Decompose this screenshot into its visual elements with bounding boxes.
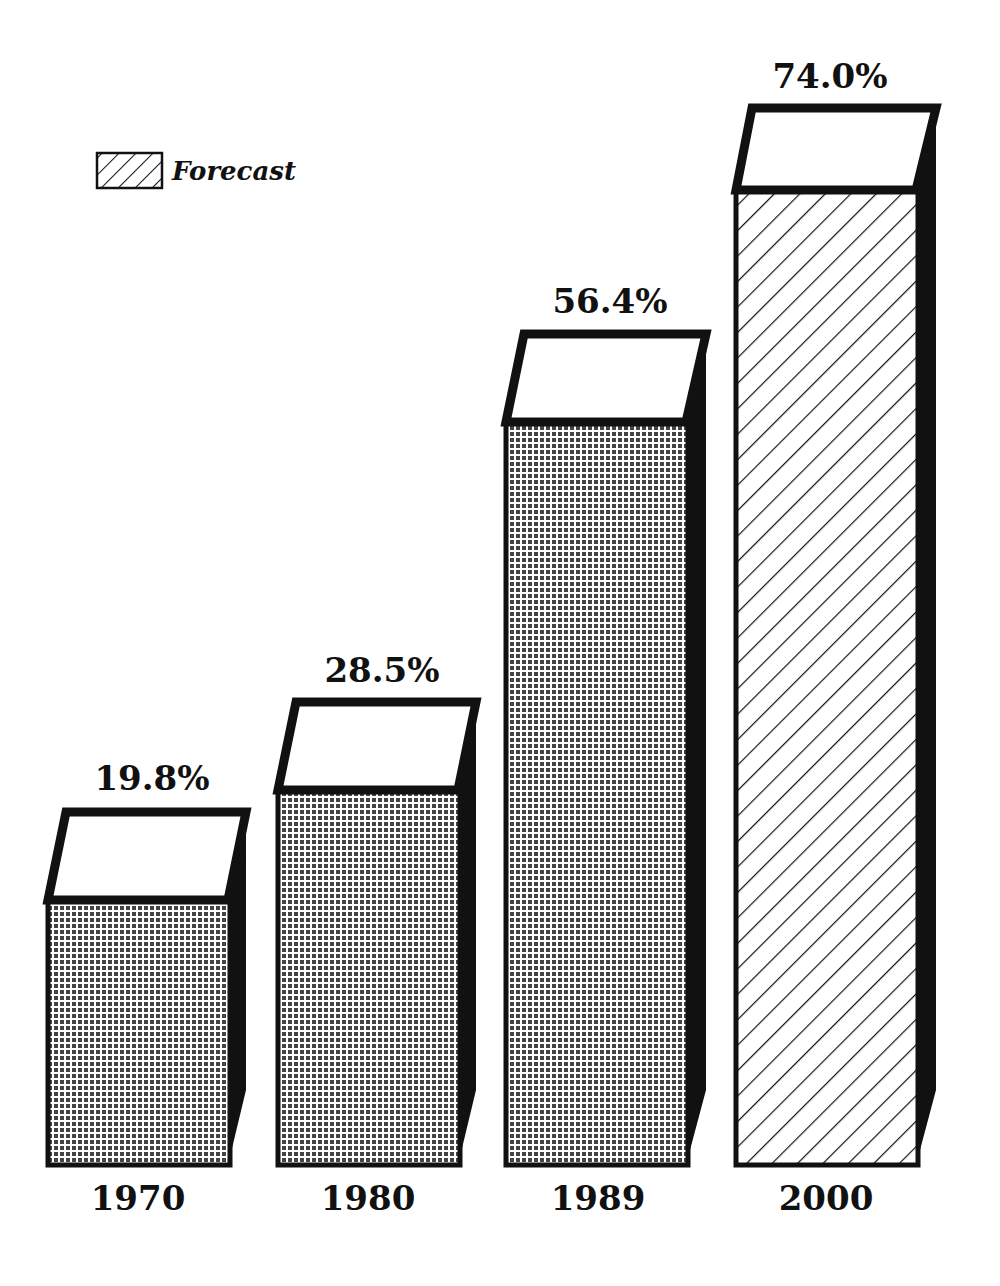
category-label: 1989	[551, 1178, 646, 1218]
value-label: 28.5%	[324, 650, 439, 690]
bar-top	[48, 812, 246, 900]
category-label: 2000	[779, 1178, 874, 1218]
bar-front	[278, 790, 460, 1165]
legend: Forecast	[97, 153, 296, 188]
legend-swatch-forecast	[97, 153, 162, 188]
bar-top	[278, 702, 476, 790]
value-label: 74.0%	[772, 56, 887, 96]
value-label: 56.4%	[552, 281, 667, 321]
bar-front	[506, 422, 688, 1165]
legend-label-forecast: Forecast	[171, 156, 296, 186]
category-label: 1980	[321, 1178, 416, 1218]
category-label: 1970	[91, 1178, 186, 1218]
bar-top	[506, 334, 706, 422]
bar-1989: 56.4% 1989	[506, 281, 706, 1218]
bar-top	[736, 108, 936, 190]
bar-1970: 19.8% 1970	[48, 758, 246, 1218]
bar-1980: 28.5% 1980	[278, 650, 476, 1218]
bar-2000-forecast: 74.0% 2000	[736, 56, 936, 1218]
value-label: 19.8%	[94, 758, 209, 798]
bar-front	[736, 190, 918, 1165]
bar-front	[48, 900, 230, 1165]
bar-chart: Forecast 19.8% 1970 28.5% 1980 56.4% 198…	[0, 0, 1000, 1286]
